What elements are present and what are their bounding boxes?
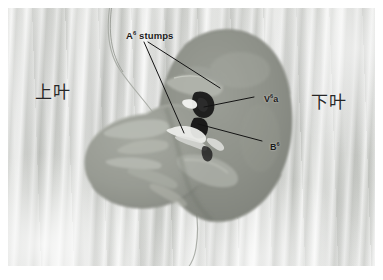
label-upper-lobe: 上叶 [35, 78, 71, 103]
photograph-plate: A6 stumps V6a B6 上叶 下叶 [8, 8, 375, 266]
label-b6-prefix: B [270, 142, 277, 152]
label-lower-lobe: 下叶 [311, 88, 347, 113]
label-b6: B6 [270, 141, 280, 152]
anatomy-artwork [8, 8, 375, 266]
label-a6-suffix: stumps [136, 30, 173, 41]
label-a6-stumps: A6 stumps [126, 30, 173, 41]
label-b6-superscript: 6 [277, 141, 280, 147]
label-v6a-suffix: a [273, 94, 278, 104]
label-a6-prefix: A [126, 30, 133, 41]
label-v6a: V6a [264, 93, 278, 104]
figure-container: A6 stumps V6a B6 上叶 下叶 [0, 0, 383, 280]
